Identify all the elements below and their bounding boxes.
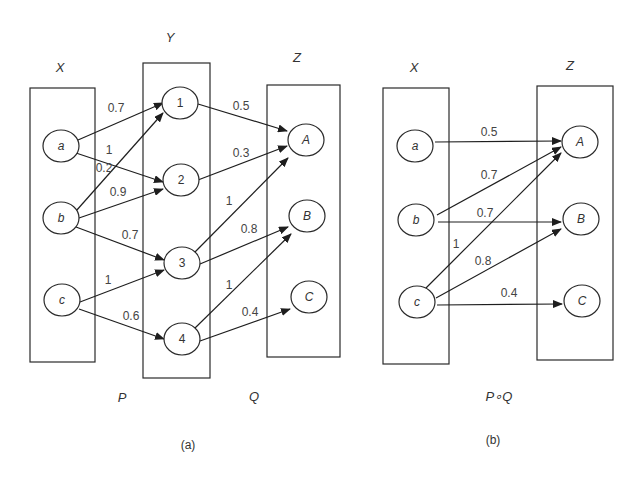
composed-weights: 0.5 0.7 0.7 1 0.8 0.4 <box>453 125 518 300</box>
node-1-label: 1 <box>177 96 184 110</box>
weight-b-2: 0.9 <box>110 185 127 199</box>
node-B-label: B <box>303 209 311 223</box>
relation-q-label: Q <box>249 389 259 404</box>
relation-p-edges <box>76 103 164 339</box>
relation-p-weights: 0.7 1 0.2 0.9 0.7 1 0.6 <box>96 101 140 323</box>
set-z-nodes: A B C <box>288 124 327 313</box>
diagram-b: X Z 0.5 0.7 0.7 1 0.8 0.4 a b c <box>383 58 613 447</box>
set-z-label: Z <box>292 50 302 65</box>
caption-b: (b) <box>486 433 501 447</box>
edge-b-b-A <box>437 147 561 215</box>
composition-diagram: X Y Z 0.7 1 0.2 0.9 0.7 <box>0 0 641 477</box>
relation-composition-label: P∘Q <box>486 389 513 404</box>
caption-a: (a) <box>181 438 196 452</box>
node-4-label: 4 <box>179 332 186 346</box>
set-y-label: Y <box>166 30 176 45</box>
edge-b-c-C <box>437 304 562 305</box>
node-3-label: 3 <box>179 256 186 270</box>
node-A-label: A <box>301 133 310 147</box>
edge-c-3 <box>80 270 164 302</box>
weight-b-b-B: 0.7 <box>477 206 494 220</box>
edge-c-4 <box>79 309 164 339</box>
weight-a-1: 0.7 <box>108 101 125 115</box>
weight-b-c-C: 0.4 <box>501 286 518 300</box>
set-x-label-b: X <box>409 60 420 75</box>
node-b-label: b <box>58 211 65 225</box>
edge-b-a-A <box>435 141 561 142</box>
weight-b-3: 0.7 <box>122 228 139 242</box>
edge-a-2 <box>76 153 163 182</box>
diagram-a: X Y Z 0.7 1 0.2 0.9 0.7 <box>30 30 340 452</box>
set-z-nodes-b: A B C <box>562 126 600 317</box>
set-x-nodes-b: a b c <box>397 130 435 318</box>
set-y-nodes: 1 2 3 4 <box>162 87 200 355</box>
node-b-b-label: b <box>413 213 420 227</box>
edge-b-3 <box>76 227 164 260</box>
weight-c-4: 0.6 <box>123 309 140 323</box>
weight-b-c-A: 1 <box>453 237 460 251</box>
weight-4-B: 1 <box>226 278 233 292</box>
weight-3-A: 1 <box>226 194 233 208</box>
set-x-nodes: a b c <box>43 130 80 316</box>
node-C-label: C <box>305 290 314 304</box>
node-a-label: a <box>58 139 65 153</box>
relation-q-weights: 0.5 0.3 1 0.8 1 0.4 <box>226 99 259 319</box>
node-c-label: c <box>59 293 65 307</box>
weight-2-A: 0.3 <box>233 146 250 160</box>
node-b-a-label: a <box>412 139 419 153</box>
set-z-label-b: Z <box>565 58 575 73</box>
composed-edges <box>425 141 562 305</box>
weight-a-2: 1 <box>106 143 113 157</box>
weight-b-a-A: 0.5 <box>481 125 498 139</box>
weight-1-A: 0.5 <box>233 99 250 113</box>
weight-3-B: 0.8 <box>241 222 258 236</box>
node-2-label: 2 <box>178 173 185 187</box>
weight-b-b-A: 0.7 <box>481 168 498 182</box>
node-b-c-label: c <box>414 295 420 309</box>
weight-b-1: 0.2 <box>96 161 113 175</box>
set-x-label: X <box>55 60 66 75</box>
weight-4-C: 0.4 <box>242 305 259 319</box>
relation-p-label: P <box>118 390 127 405</box>
node-b-B-label: B <box>577 212 585 226</box>
edge-3-A <box>194 158 288 253</box>
node-b-A-label: A <box>575 135 584 149</box>
node-b-C-label: C <box>578 294 587 308</box>
weight-b-c-B: 0.8 <box>475 254 492 268</box>
weight-c-3: 1 <box>105 273 112 287</box>
